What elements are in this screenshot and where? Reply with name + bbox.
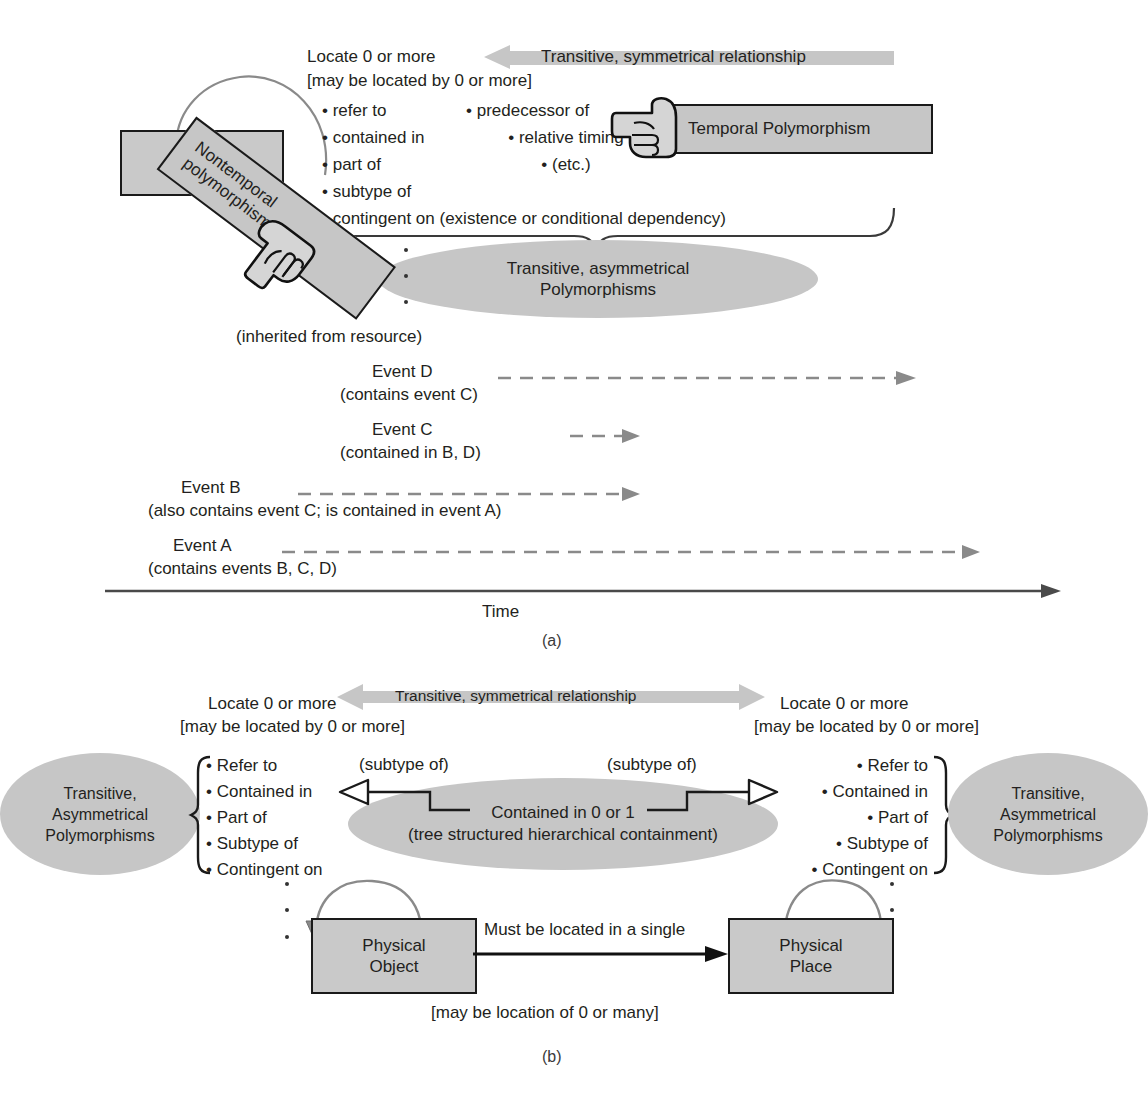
pointing-hand-icon [612, 97, 690, 159]
transitive-symmetrical-label-b: Transitive, symmetrical relationship [395, 686, 636, 705]
ellipse-line-3: Polymorphisms [45, 825, 154, 846]
list-item: • Refer to [206, 755, 323, 776]
subtype-of-arrow-left [338, 778, 473, 816]
list-item: • Contained in [760, 781, 928, 802]
bullet-dot [404, 248, 408, 252]
time-axis-arrow [105, 584, 1065, 598]
locate-left-line-1: Locate 0 or more [208, 693, 337, 714]
ellipse-line-2: Asymmetrical [52, 804, 148, 825]
event-a-timeline-arrow [282, 545, 982, 559]
list-item: • Part of [760, 807, 928, 828]
list-item: • Part of [206, 807, 323, 828]
event-a-detail: (contains events B, C, D) [148, 558, 337, 579]
panel-a: Transitive, symmetrical relationship Eve… [0, 0, 1112, 660]
event-d-timeline-arrow [498, 371, 918, 385]
bullet-dot [404, 274, 408, 278]
transitive-asymmetrical-ellipse-a: Transitive, asymmetrical Polymorphisms [378, 240, 818, 318]
event-d-detail: (contains event C) [340, 384, 478, 405]
located-in-relation-arrow [473, 946, 731, 962]
bullet-dot [285, 908, 289, 912]
time-axis-label: Time [482, 601, 519, 622]
event-a-name: Event A [173, 535, 232, 556]
event-b-timeline-arrow [298, 487, 642, 501]
ellipse-line-2: (tree structured hierarchical containmen… [408, 824, 718, 846]
locate-line-2-a: [may be located by 0 or more] [307, 70, 532, 91]
bullet-dot [404, 300, 408, 304]
right-polymorphism-list: • Refer to • Contained in • Part of • Su… [760, 755, 928, 880]
physical-object-box[interactable]: Physical Object [311, 918, 477, 994]
event-b-detail: (also contains event C; is contained in … [148, 500, 501, 521]
bullet-dot [285, 935, 289, 939]
ellipse-line-2: Polymorphisms [540, 279, 656, 300]
located-in-relation-label: Must be located in a single [484, 919, 685, 940]
ellipse-line-1: Contained in 0 or 1 [491, 802, 635, 824]
panel-a-caption: (a) [542, 632, 562, 650]
transitive-asymmetrical-ellipse-left: Transitive, Asymmetrical Polymorphisms [0, 753, 200, 875]
physical-place-line-1: Physical [779, 935, 842, 956]
event-b-name: Event B [181, 477, 241, 498]
located-in-relation-note: [may be location of 0 or many] [431, 1002, 659, 1023]
temporal-polymorphism-banner[interactable]: Temporal Polymorphism [672, 104, 933, 154]
physical-place-box[interactable]: Physical Place [728, 918, 894, 994]
physical-place-line-2: Place [790, 956, 833, 977]
list-item: • Refer to [760, 755, 928, 776]
subtype-of-label-right: (subtype of) [607, 754, 697, 775]
physical-object-line-2: Object [369, 956, 418, 977]
ellipse-line-1: Transitive, asymmetrical [507, 258, 690, 279]
transitive-asymmetrical-ellipse-right: Transitive, Asymmetrical Polymorphisms [948, 753, 1148, 875]
ellipse-line-1: Transitive, [63, 783, 136, 804]
physical-object-line-1: Physical [362, 935, 425, 956]
temporal-polymorphism-label: Temporal Polymorphism [688, 119, 870, 139]
left-polymorphism-list: • Refer to • Contained in • Part of • Su… [206, 755, 323, 880]
event-c-detail: (contained in B, D) [340, 442, 481, 463]
transitive-symmetrical-label-a: Transitive, symmetrical relationship [541, 46, 806, 67]
ellipse-line-2: Asymmetrical [1000, 804, 1096, 825]
event-d-name: Event D [372, 361, 432, 382]
list-item: • Contained in [206, 781, 323, 802]
locate-line-1-a: Locate 0 or more [307, 46, 436, 67]
locate-left-line-2: [may be located by 0 or more] [180, 716, 405, 737]
locate-right-line-2: [may be located by 0 or more] [754, 716, 979, 737]
inherited-from-resource-note: (inherited from resource) [236, 326, 422, 347]
event-c-name: Event C [372, 419, 432, 440]
bullet-dot [285, 882, 289, 886]
list-item: • subtype of [322, 181, 726, 202]
locate-right-line-1: Locate 0 or more [780, 693, 909, 714]
event-c-timeline-arrow [570, 429, 642, 443]
ellipse-line-1: Transitive, [1011, 783, 1084, 804]
list-item: • Subtype of [760, 833, 928, 854]
panel-b-caption: (b) [542, 1048, 562, 1066]
panel-b: Transitive, symmetrical relationship Loc… [0, 660, 1112, 1116]
subtype-of-label-left: (subtype of) [359, 754, 449, 775]
list-item: • Subtype of [206, 833, 323, 854]
ellipse-line-3: Polymorphisms [993, 825, 1102, 846]
